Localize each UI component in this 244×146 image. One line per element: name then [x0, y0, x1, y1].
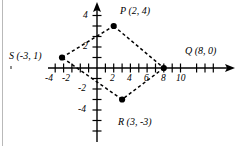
x-tick-label-10: 10 — [176, 74, 186, 84]
y-tick-label--4: -4 — [78, 105, 86, 115]
y-tick-label-4: 4 — [83, 11, 88, 21]
x-tick-label--2: -2 — [62, 74, 70, 84]
point-P-dot[interactable] — [111, 23, 117, 29]
x-tick-label-8: 8 — [161, 74, 166, 84]
x-tick-label-4: 4 — [127, 74, 132, 84]
point-Q-dot[interactable] — [161, 65, 167, 71]
vertex-dots — [59, 23, 167, 103]
edge-P-Q — [114, 26, 164, 68]
x-tick-label--4: -4 — [45, 74, 53, 84]
x-tick-label-2: 2 — [110, 74, 115, 84]
x-tick-label-6: 6 — [144, 74, 149, 84]
point-S-dot[interactable] — [59, 54, 65, 60]
y-tick-label--2: -2 — [78, 84, 86, 94]
y-tick-label-2: 2 — [83, 42, 88, 52]
point-label-Q: Q (8, 0) — [185, 46, 216, 56]
point-label-P: P (2, 4) — [120, 6, 150, 16]
point-label-S: S (-3, 1) — [9, 51, 42, 61]
point-label-R: R (3, -3) — [118, 117, 152, 127]
point-R-dot[interactable] — [119, 96, 125, 102]
